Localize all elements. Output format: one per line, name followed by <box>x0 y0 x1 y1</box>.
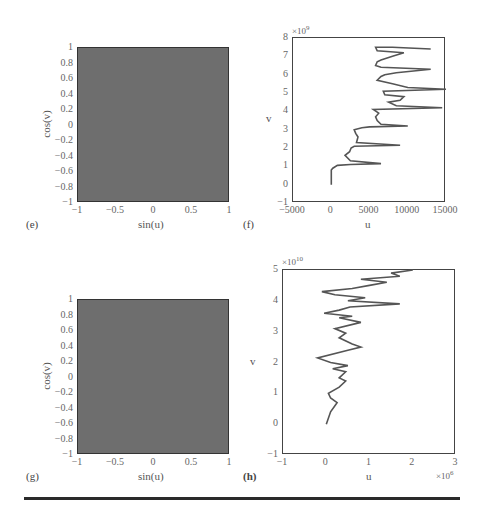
panel-h-ytick-label: 3 <box>244 326 278 336</box>
panel-h-xtick-label: 3 <box>435 457 475 467</box>
panel-e-ytick-label: −0.6 <box>39 166 73 176</box>
panel-h-xtick-label: −1 <box>262 457 302 467</box>
panel-g-xlabel: sin(u) <box>138 470 164 482</box>
panel-e-ytick-label: 1 <box>39 42 73 52</box>
panel-h-ytick-label: 1 <box>244 387 278 397</box>
panel-f-ytick-label: 0 <box>254 179 288 189</box>
panel-h-plot-area <box>282 269 455 454</box>
panel-e-plot-area <box>77 47 229 202</box>
panel-g-ylabel: cos(v) <box>40 362 52 390</box>
panel-h-y-multiplier: ×1010 <box>282 255 303 267</box>
panel-f-ytick-label: 2 <box>254 142 288 152</box>
panel-h-ylabel: v <box>250 355 256 367</box>
panel-f-xtick-label: 0 <box>310 205 350 215</box>
panel-g-plot-area <box>77 299 229 454</box>
panel-g-xtick-label: 1 <box>209 457 249 467</box>
panel-g-ytick-label: 0.6 <box>39 325 73 335</box>
panel-g-xtick-label: −1 <box>57 457 97 467</box>
panel-f-ytick-label: 5 <box>254 87 288 97</box>
panel-g-ytick-label: 0.8 <box>39 310 73 320</box>
panel-g-xtick-label: 0.5 <box>171 457 211 467</box>
panel-f-xtick-label: 10000 <box>387 205 427 215</box>
panel-e-ytick-label: −0.8 <box>39 182 73 192</box>
panel-h-ytick-label: 0 <box>244 418 278 428</box>
panel-h-xtick-label: 1 <box>349 457 389 467</box>
panel-f-xtick-label: −5000 <box>272 205 312 215</box>
panel-h-ytick-label: 5 <box>244 264 278 274</box>
panel-f-ytick-label: 1 <box>254 160 288 170</box>
panel-g-ytick-label: 0.4 <box>39 341 73 351</box>
panel-g-xtick-label: 0 <box>133 457 173 467</box>
panel-e-ytick-label: 0.4 <box>39 89 73 99</box>
panel-f-ytick-label: 7 <box>254 50 288 60</box>
panel-h-x-multiplier: ×106 <box>436 469 454 481</box>
panel-e-label: (e) <box>26 218 38 230</box>
panel-g-label: (g) <box>26 470 39 482</box>
panel-f-xtick-label: 5000 <box>349 205 389 215</box>
panel-f-y-multiplier: ×109 <box>292 24 310 36</box>
panel-e-xtick-label: 1 <box>209 205 249 215</box>
panel-h-ytick-label: 4 <box>244 295 278 305</box>
panel-e-ytick-label: 0.8 <box>39 58 73 68</box>
panel-f-ytick-label: 3 <box>254 124 288 134</box>
panel-f-xlabel: u <box>365 218 371 230</box>
panel-e-ylabel: cos(v) <box>40 110 52 138</box>
panel-e-xtick-label: −1 <box>57 205 97 215</box>
panel-e-ytick-label: −0.4 <box>39 151 73 161</box>
panel-e-xtick-label: 0.5 <box>171 205 211 215</box>
panel-h-label: (h) <box>243 470 256 482</box>
panel-e-xtick-label: 0 <box>133 205 173 215</box>
panel-h-xlabel: u <box>366 470 372 482</box>
bottom-rule <box>24 497 460 500</box>
panel-h-xtick-label: 0 <box>305 457 345 467</box>
panel-h-trace <box>283 270 456 455</box>
panel-g-ytick-label: −0.6 <box>39 418 73 428</box>
panel-e-ytick-label: 0.6 <box>39 73 73 83</box>
panel-f-ytick-label: 8 <box>254 32 288 42</box>
panel-e-xtick-label: −0.5 <box>95 205 135 215</box>
panel-f-xtick-label: 15000 <box>425 205 465 215</box>
panel-f-plot-area <box>292 37 445 202</box>
panel-f-label: (f) <box>243 218 254 230</box>
panel-g-ytick-label: −0.8 <box>39 434 73 444</box>
panel-g-xtick-label: −0.5 <box>95 457 135 467</box>
panel-g-ytick-label: −0.4 <box>39 403 73 413</box>
panel-f-trace <box>293 38 446 203</box>
panel-f-ylabel: v <box>266 112 272 124</box>
panel-e-xlabel: sin(u) <box>138 218 164 230</box>
panel-f-ytick-label: 6 <box>254 69 288 79</box>
panel-g-ytick-label: 1 <box>39 294 73 304</box>
panel-h-xtick-label: 2 <box>392 457 432 467</box>
